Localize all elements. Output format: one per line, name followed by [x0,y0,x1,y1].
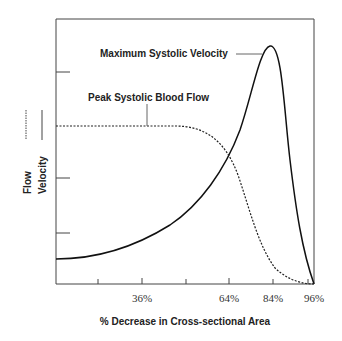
y-label-velocity: Velocity [37,156,48,194]
velocity-curve [56,46,314,284]
x-tick-36: 36% [132,292,152,304]
x-axis-label: % Decrease in Cross-sectional Area [100,316,271,327]
x-tick-84: 84% [263,292,283,304]
chart: Maximum Systolic Velocity Peak Systolic … [0,0,342,341]
x-tick-96: 96% [304,292,324,304]
flow-curve [56,126,314,284]
y-axis-ticks [56,72,70,233]
x-axis-ticks [98,278,308,284]
x-tick-64: 64% [219,292,239,304]
flow-annotation: Peak Systolic Blood Flow [88,92,209,103]
y-label-flow: Flow [22,171,33,194]
velocity-annotation: Maximum Systolic Velocity [100,48,228,59]
